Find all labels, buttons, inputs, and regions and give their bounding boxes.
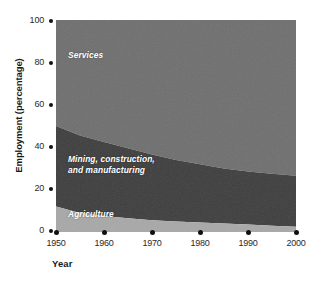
x-axis-title: Year xyxy=(52,258,72,269)
y-tick-marker-80 xyxy=(49,61,53,65)
y-tick-label-0: 0 xyxy=(14,225,44,235)
stacked-area-chart-figure: Employment (percentage) 100 80 60 40 20 … xyxy=(0,0,318,282)
x-tick-label-1990: 1990 xyxy=(228,238,268,248)
y-tick-marker-100 xyxy=(49,19,53,23)
y-tick-label-100: 100 xyxy=(14,15,44,25)
x-tick-marker-1960 xyxy=(102,230,107,235)
y-tick-marker-0 xyxy=(49,229,53,233)
x-tick-marker-1980 xyxy=(198,230,203,235)
x-tick-marker-1950 xyxy=(54,230,59,235)
y-tick-label-60: 60 xyxy=(14,99,44,109)
x-tick-label-1950: 1950 xyxy=(36,238,76,248)
band-label-services: Services xyxy=(68,50,103,61)
plot-area: Services Mining, construction, and manuf… xyxy=(56,20,296,232)
band-label-agriculture: Agriculture xyxy=(68,209,114,220)
x-tick-label-1960: 1960 xyxy=(84,238,124,248)
y-tick-label-80: 80 xyxy=(14,57,44,67)
x-tick-label-1980: 1980 xyxy=(180,238,220,248)
y-tick-marker-40 xyxy=(49,145,53,149)
y-tick-label-40: 40 xyxy=(14,141,44,151)
x-tick-label-2000: 2000 xyxy=(276,238,316,248)
y-tick-label-20: 20 xyxy=(14,183,44,193)
x-tick-marker-2000 xyxy=(294,230,299,235)
x-tick-marker-1990 xyxy=(246,230,251,235)
y-tick-marker-20 xyxy=(49,187,53,191)
band-label-manufacturing: Mining, construction, and manufacturing xyxy=(68,154,155,175)
x-tick-label-1970: 1970 xyxy=(132,238,172,248)
y-tick-marker-60 xyxy=(49,103,53,107)
x-tick-marker-1970 xyxy=(150,230,155,235)
